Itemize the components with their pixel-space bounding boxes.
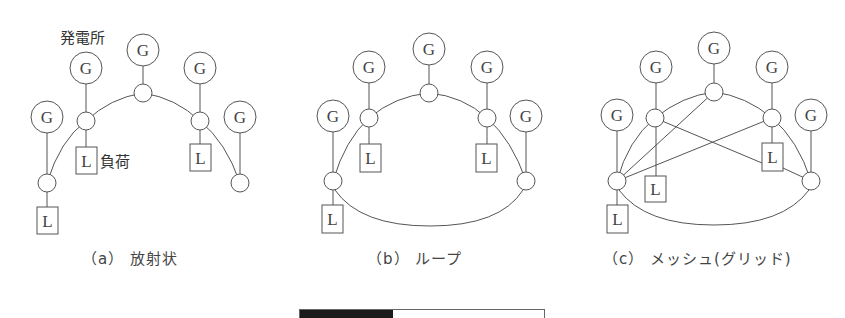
generator-icon: G xyxy=(601,99,633,131)
bus-node-icon xyxy=(763,109,781,127)
bus-node-icon xyxy=(517,172,535,190)
load-icon: L xyxy=(190,144,211,171)
load-icon: L xyxy=(476,144,497,172)
svg-text:G: G xyxy=(234,108,246,127)
load-icon: L xyxy=(76,147,97,174)
generator-icon: G xyxy=(353,51,385,83)
generator-icon: G xyxy=(795,99,827,131)
generator-icon: G xyxy=(70,52,102,84)
panel-a-radial: G G G G G L L L xyxy=(31,34,256,234)
svg-text:L: L xyxy=(612,210,622,229)
bus-node-icon xyxy=(324,172,342,190)
load-icon: L xyxy=(607,205,628,233)
svg-text:G: G xyxy=(327,107,339,126)
generator-icon: G xyxy=(413,33,445,65)
svg-text:G: G xyxy=(41,108,53,127)
generator-icon: G xyxy=(471,51,503,83)
bus-node-icon xyxy=(231,174,249,192)
progress-bar xyxy=(299,309,545,318)
bus-node-icon xyxy=(478,109,496,127)
svg-text:G: G xyxy=(650,58,662,77)
bus-node-icon xyxy=(38,174,56,192)
svg-text:L: L xyxy=(327,210,337,229)
generator-icon: G xyxy=(317,100,349,132)
svg-text:G: G xyxy=(708,39,720,58)
bus-node-icon xyxy=(77,112,95,130)
bus-node-icon xyxy=(705,83,723,101)
load-icon: L xyxy=(37,207,58,234)
panel-b-loop: G G G G G L L L xyxy=(317,33,542,233)
generator-icon: G xyxy=(224,101,256,133)
generator-icon: G xyxy=(510,100,542,132)
svg-text:L: L xyxy=(650,180,660,199)
svg-text:G: G xyxy=(80,59,92,78)
bus-node-icon xyxy=(191,112,209,130)
svg-text:L: L xyxy=(767,148,777,167)
panel-c-mesh: G G G G G L L L xyxy=(601,32,827,233)
bus-node-icon xyxy=(802,172,820,190)
generator-icon: G xyxy=(756,51,788,83)
generator-icon: G xyxy=(184,52,216,84)
svg-text:L: L xyxy=(365,149,375,168)
svg-text:L: L xyxy=(195,149,205,168)
svg-text:G: G xyxy=(423,40,435,59)
svg-text:G: G xyxy=(137,41,149,60)
load-icon: L xyxy=(322,205,343,233)
svg-text:G: G xyxy=(363,58,375,77)
generator-icon: G xyxy=(640,51,672,83)
svg-text:L: L xyxy=(81,152,91,171)
generator-icon: G xyxy=(698,32,730,64)
progress-bar-fill xyxy=(300,310,393,318)
svg-text:G: G xyxy=(766,58,778,77)
svg-text:L: L xyxy=(42,212,52,231)
bus-node-icon xyxy=(646,109,664,127)
svg-text:G: G xyxy=(481,58,493,77)
caption-a-radial: （a） 放射状 xyxy=(82,247,178,268)
load-icon: L xyxy=(762,143,783,171)
bus-node-icon xyxy=(420,84,438,102)
svg-text:G: G xyxy=(194,59,206,78)
svg-text:G: G xyxy=(520,107,532,126)
load-label: 負荷 xyxy=(100,150,130,171)
bus-node-icon xyxy=(134,84,152,102)
load-icon: L xyxy=(360,144,381,172)
bus-node-icon xyxy=(608,172,626,190)
generator-icon: G xyxy=(127,34,159,66)
caption-b-loop: （b） ループ xyxy=(367,247,462,268)
power-station-label: 発電所 xyxy=(60,26,105,47)
generator-icon: G xyxy=(31,101,63,133)
svg-text:L: L xyxy=(481,149,491,168)
bus-node-icon xyxy=(360,109,378,127)
svg-text:G: G xyxy=(805,106,817,125)
caption-c-mesh: （c） メッシュ(グリッド) xyxy=(603,247,792,268)
load-icon: L xyxy=(645,176,666,202)
svg-text:G: G xyxy=(611,106,623,125)
